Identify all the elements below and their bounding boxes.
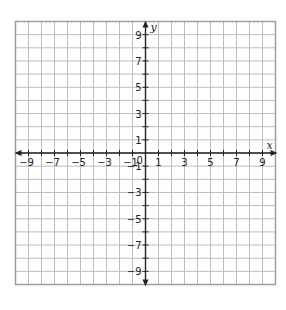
x-tick-label: 1 (155, 157, 161, 168)
origin-label: 0 (137, 155, 143, 166)
x-tick-label: 9 (259, 157, 265, 168)
axes (15, 21, 278, 287)
y-tick-label: −7 (127, 240, 142, 251)
x-tick-label: 3 (181, 157, 187, 168)
y-tick-label: −3 (127, 187, 142, 198)
x-tick-label: 7 (233, 157, 239, 168)
y-tick-label: −9 (127, 266, 142, 277)
y-axis-arrow-down-icon (143, 280, 149, 287)
x-tick-label: −5 (71, 157, 86, 168)
x-axis-label: x (267, 139, 274, 152)
y-tick-label: 7 (135, 56, 141, 67)
x-tick-label: −3 (97, 157, 112, 168)
y-axis-label: y (150, 21, 158, 34)
y-tick-label: 5 (135, 82, 141, 93)
y-tick-label: 3 (135, 109, 141, 120)
coordinate-plane: −9−7−5−3−113579 97531−1−3−5−7−9 0 x y (0, 0, 286, 310)
x-tick-label: −9 (19, 157, 34, 168)
y-tick-label: 9 (135, 30, 141, 41)
y-tick-label: −5 (127, 214, 142, 225)
y-tick-label: 1 (135, 135, 141, 146)
x-tick-label: −7 (45, 157, 60, 168)
x-tick-label: 5 (207, 157, 213, 168)
